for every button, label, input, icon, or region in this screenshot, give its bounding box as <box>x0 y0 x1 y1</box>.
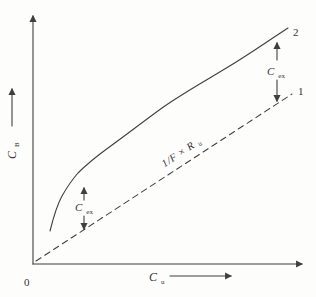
cex-lower-main: C <box>75 201 83 213</box>
origin-label: 0 <box>24 276 30 288</box>
chart-canvas: 2 1 1/F × R u C ex C ex C B C u <box>0 0 316 297</box>
cex-upper-main: C <box>267 65 275 77</box>
equation-main: 1/F × R <box>160 139 197 169</box>
cex-upper-subscript: ex <box>278 72 285 80</box>
line-1-label: 1 <box>298 85 304 97</box>
curve-2-label: 2 <box>293 26 299 38</box>
qualitative-graph-figure: 2 1 1/F × R u C ex C ex C B C u <box>0 0 316 297</box>
dashed-line-equation: 1/F × R u <box>157 131 204 171</box>
x-axis-label-main: C <box>149 270 158 284</box>
y-axis-label-main: C <box>5 150 19 159</box>
cex-lower-label: C ex <box>75 197 93 216</box>
equation-subscript: u <box>196 139 204 148</box>
cex-upper-label: C ex <box>267 61 285 80</box>
x-axis-label: C u <box>149 267 165 286</box>
cex-lower-subscript: ex <box>86 208 93 216</box>
x-axis-label-subscript: u <box>161 278 165 286</box>
y-axis-label: C B <box>2 142 21 159</box>
y-axis-label-subscript: B <box>13 142 21 147</box>
